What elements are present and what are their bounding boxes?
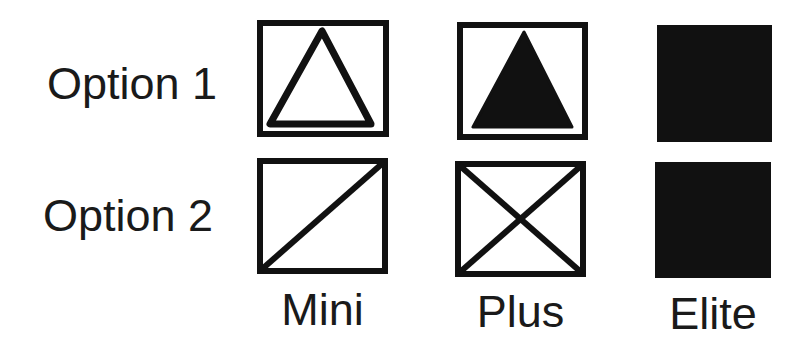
column-label-mini: Mini xyxy=(257,287,388,332)
box-with-x-icon xyxy=(455,161,586,277)
outlined-triangle-in-box-icon xyxy=(257,20,389,137)
row-label-option-2: Option 2 xyxy=(43,193,213,238)
column-label-plus: Plus xyxy=(455,289,586,334)
row-label-option-1: Option 1 xyxy=(47,61,217,106)
filled-square-icon xyxy=(655,162,771,278)
column-label-elite: Elite xyxy=(655,291,771,336)
filled-triangle-in-box-icon xyxy=(457,22,588,140)
box-with-diagonal-icon xyxy=(257,158,388,274)
filled-square-icon xyxy=(657,25,772,142)
